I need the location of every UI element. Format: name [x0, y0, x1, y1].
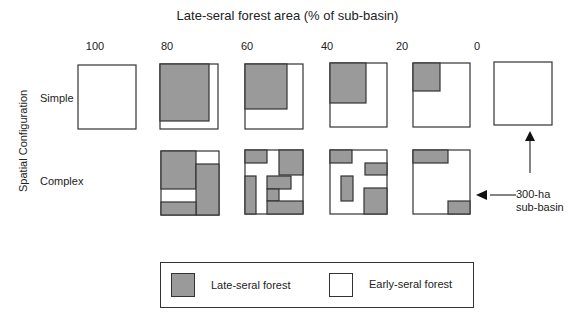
- legend-early-seral-label: Early-seral forest: [369, 278, 452, 290]
- simple-40-square: [330, 63, 387, 127]
- complex-80-square: [161, 151, 219, 215]
- legend-late-seral-label: Late-seral forest: [211, 279, 290, 291]
- legend-late-seral-swatch: [171, 273, 195, 297]
- simple-20-square: [413, 63, 470, 127]
- arrow-left-head-icon: [476, 190, 487, 200]
- annotation-line-1: 300-ha: [516, 188, 564, 201]
- arrow-up-head-icon: [525, 131, 535, 141]
- annotation-line-2: sub-basin: [516, 201, 564, 214]
- complex-60-square: [245, 150, 303, 214]
- complex-20-square: [413, 150, 470, 214]
- legend-early-seral-swatch: [329, 273, 353, 297]
- simple-60-square: [245, 64, 303, 129]
- complex-40-square: [330, 150, 387, 214]
- legend: Late-seral forest Early-seral forest: [160, 262, 474, 308]
- simple-100-square: [78, 65, 136, 129]
- simple-0-square: [494, 62, 552, 125]
- subbasin-annotation: 300-ha sub-basin: [516, 188, 564, 214]
- simple-80-square: [160, 64, 218, 129]
